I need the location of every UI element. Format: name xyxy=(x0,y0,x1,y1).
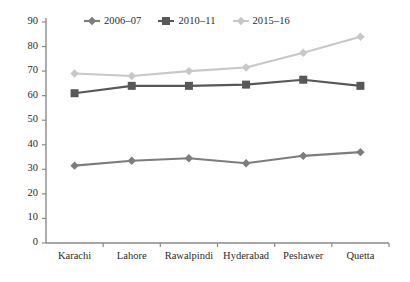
series-2 xyxy=(70,33,364,81)
series-1 xyxy=(71,76,365,98)
line-chart: 2006–07 2010–11 2015–16 0102030405060708… xyxy=(0,0,410,282)
x-tick-label: Peshawer xyxy=(275,250,332,261)
legend-marker-icon-2 xyxy=(233,16,249,26)
legend-label-1: 2010–11 xyxy=(178,15,215,26)
legend-item-1[interactable]: 2010–11 xyxy=(158,15,215,26)
legend-marker-icon-1 xyxy=(158,16,174,26)
y-tick-label: 80 xyxy=(8,40,38,51)
x-tick-label: Lahore xyxy=(103,250,160,261)
x-tick-label: Rawalpindi xyxy=(160,250,217,261)
chart-plot-area xyxy=(0,0,410,282)
y-tick-label: 60 xyxy=(8,89,38,100)
y-tick-label: 70 xyxy=(8,64,38,75)
legend-marker-icon-0 xyxy=(84,16,100,26)
y-tick-label: 10 xyxy=(8,211,38,222)
chart-legend: 2006–07 2010–11 2015–16 xyxy=(84,15,290,26)
y-tick-label: 40 xyxy=(8,138,38,149)
y-tick-label: 90 xyxy=(8,15,38,26)
legend-item-0[interactable]: 2006–07 xyxy=(84,15,141,26)
x-tick-label: Quetta xyxy=(332,250,389,261)
y-tick-label: 20 xyxy=(8,187,38,198)
legend-item-2[interactable]: 2015–16 xyxy=(233,15,290,26)
series-0 xyxy=(70,148,364,170)
y-tick-label: 30 xyxy=(8,162,38,173)
x-tick-label: Karachi xyxy=(46,250,103,261)
legend-label-0: 2006–07 xyxy=(104,15,141,26)
y-tick-label: 50 xyxy=(8,113,38,124)
x-tick-label: Hyderabad xyxy=(218,250,275,261)
y-tick-label: 0 xyxy=(8,236,38,247)
legend-label-2: 2015–16 xyxy=(253,15,290,26)
